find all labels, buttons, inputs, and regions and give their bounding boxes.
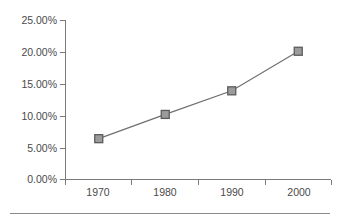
line-chart-canvas: 25.00% 20.00% 15.00% 10.00% 5.00% 0.00% … [0, 0, 339, 222]
x-tick-label-1980: 1980 [153, 186, 177, 198]
y-tick-label-10: 10.00% [21, 110, 57, 122]
data-point-1990 [228, 87, 236, 95]
y-tick-label-0: 0.00% [27, 173, 57, 185]
y-tick-label-25: 25.00% [21, 14, 57, 26]
data-point-2000 [294, 47, 302, 55]
y-tick-label-5: 5.00% [27, 142, 57, 154]
x-tick-label-1970: 1970 [86, 186, 110, 198]
y-tick-label-15: 15.00% [21, 78, 57, 90]
x-tick-label-1990: 1990 [220, 186, 244, 198]
chart-figure: 25.00% 20.00% 15.00% 10.00% 5.00% 0.00% … [0, 0, 339, 222]
data-point-1970 [95, 135, 103, 143]
x-tick-label-2000: 2000 [287, 186, 311, 198]
y-tick-label-20: 20.00% [21, 46, 57, 58]
data-point-1980 [161, 110, 169, 118]
